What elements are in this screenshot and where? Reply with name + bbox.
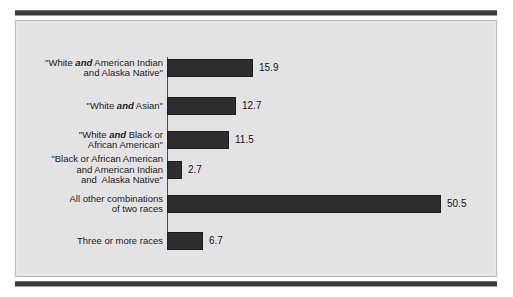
chart-row: "White and American Indianand Alaska Nat…	[16, 59, 498, 77]
category-label: "White and Black orAfrican American"	[0, 130, 163, 151]
category-label: "White and American Indianand Alaska Nat…	[0, 58, 163, 79]
category-axis-line	[167, 57, 168, 250]
bar-value-label: 12.7	[242, 100, 261, 112]
bar	[167, 131, 229, 149]
chart-row: "Black or African Americanand American I…	[16, 161, 498, 179]
chart-row: "White and Black orAfrican American"11.5	[16, 131, 498, 149]
bar-value-label: 15.9	[259, 62, 278, 74]
bar	[167, 232, 203, 250]
bar-value-label: 11.5	[235, 134, 254, 146]
plot-area: "White and American Indianand Alaska Nat…	[16, 21, 498, 278]
category-label: "Black or African Americanand American I…	[0, 154, 163, 186]
top-rule	[15, 10, 497, 16]
bar-value-label: 6.7	[209, 235, 223, 247]
chart-row: All other combinationsof two races50.5	[16, 195, 498, 213]
bar	[167, 59, 253, 77]
category-label-line: "White and Asian"	[0, 101, 163, 112]
figure-root: "White and American Indianand Alaska Nat…	[0, 0, 513, 297]
category-label: All other combinationsof two races	[0, 194, 163, 215]
chart-row: "White and Asian"12.7	[16, 97, 498, 115]
bar	[167, 97, 236, 115]
category-label: Three or more races	[0, 236, 163, 247]
category-label: "White and Asian"	[0, 101, 163, 112]
category-label-line: and Alaska Native"	[0, 68, 163, 79]
bar	[167, 195, 441, 213]
category-label-line: African American"	[0, 140, 163, 151]
category-label-line: of two races	[0, 204, 163, 215]
chart-row: Three or more races6.7	[16, 232, 498, 250]
category-label-line: and Alaska Native"	[0, 175, 163, 186]
chart-panel: "White and American Indianand Alaska Nat…	[15, 20, 497, 277]
bar-value-label: 50.5	[447, 198, 466, 210]
bottom-rule	[15, 281, 497, 287]
bar	[167, 161, 182, 179]
bar-value-label: 2.7	[188, 164, 202, 176]
category-label-line: Three or more races	[0, 236, 163, 247]
